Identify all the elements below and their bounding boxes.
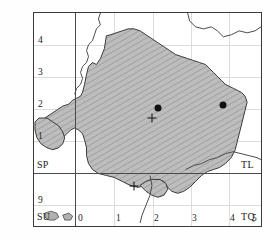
record-dot-2 xyxy=(220,102,227,109)
shaded-lobe-south xyxy=(140,179,168,197)
record-cross-2 xyxy=(130,182,139,191)
y-tick-3: 3 xyxy=(38,68,43,78)
grid-square-label-sp: SP xyxy=(37,160,49,170)
x-tick-2: 2 xyxy=(154,214,159,224)
heavy-gridline-vertical xyxy=(75,13,76,226)
y-tick-9: 9 xyxy=(38,196,43,206)
y-tick-1: 1 xyxy=(38,132,43,142)
x-tick-0: 0 xyxy=(78,214,83,224)
record-dot-1 xyxy=(155,105,162,112)
grid-square-label-tl: TL xyxy=(241,160,254,170)
grid-square-label-tq: TQ xyxy=(241,212,255,222)
heavy-gridline-horizontal xyxy=(34,173,261,174)
y-tick-2: 2 xyxy=(38,100,43,110)
grid-square-label-su: SU xyxy=(37,212,50,222)
record-cross-1 xyxy=(148,114,157,123)
map-figure: 4 3 2 1 9 0 1 2 3 4 5 SP TL SU TQ xyxy=(0,0,279,239)
y-tick-4: 4 xyxy=(38,36,43,46)
x-tick-1: 1 xyxy=(116,214,121,224)
shaded-region xyxy=(39,29,247,193)
coastline-north xyxy=(188,13,261,37)
x-tick-4: 4 xyxy=(230,214,235,224)
island-small-2 xyxy=(63,213,73,220)
x-tick-3: 3 xyxy=(192,214,197,224)
map-frame xyxy=(33,12,262,227)
